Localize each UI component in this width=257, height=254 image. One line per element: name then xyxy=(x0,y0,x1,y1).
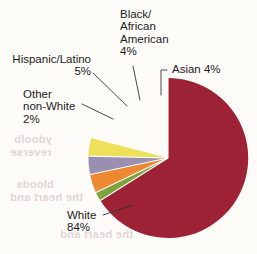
leader-line-asian xyxy=(161,70,167,95)
pie-label-hispanic-latino: Hispanic/Latino 5% xyxy=(6,53,91,78)
leader-line-black-african-american xyxy=(133,66,140,100)
leader-line-hispanic-latino xyxy=(93,73,127,106)
pie-slice-asian[interactable] xyxy=(88,138,168,158)
pie-label-black-african-american: Black/ African American 4% xyxy=(120,8,186,58)
pie-label-asian: Asian 4% xyxy=(172,63,242,75)
leader-line-other-non-white xyxy=(82,104,113,119)
pie-label-other-non-white: Other non-White 2% xyxy=(23,88,85,125)
pie-chart-figure: ydoolb reverse bloods the heart and the … xyxy=(0,0,257,254)
pie-label-white: White 84% xyxy=(67,209,117,234)
